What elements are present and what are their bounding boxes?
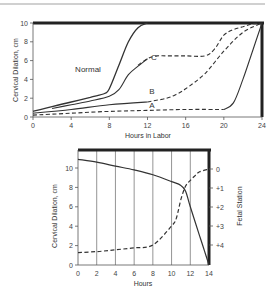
chart2-xtick-label: 14 <box>205 270 213 277</box>
chart2-xtick-label: 6 <box>132 270 136 277</box>
chart2-y2tick-label: +4 <box>216 242 224 249</box>
chart-dilation-vs-hours: 04812162024 0246810 NormalCBA Hours in L… <box>12 20 266 140</box>
chart2-y2tick-label: +3 <box>216 223 224 230</box>
series-line-fetal-station <box>78 169 209 253</box>
chart1-xtick-label: 16 <box>182 122 190 129</box>
series-line-cervical-dilation <box>78 159 209 265</box>
chart1-ytick-label: 10 <box>20 20 28 27</box>
chart1-xtick-label: 20 <box>220 122 228 129</box>
chart2-ytick-label: 2 <box>69 242 73 249</box>
chart1-xtick-label: 0 <box>31 122 35 129</box>
chart2-xtick-label: 10 <box>168 270 176 277</box>
chart2-ytick-label: 0 <box>69 262 73 269</box>
chart2-y2tick-label: +1 <box>216 185 224 192</box>
chart2-xlabel: Hours <box>134 280 153 287</box>
curve-label-b: B <box>149 87 154 96</box>
chart2-ytick-label: 10 <box>65 165 73 172</box>
chart1-xtick-label: 4 <box>69 122 73 129</box>
chart2-xtick-label: 8 <box>151 270 155 277</box>
chart-dilation-and-station: 02468101214 0246810 0+1+2+3+4 Hours Cerv… <box>51 150 243 287</box>
curve-label-a: A <box>149 101 155 110</box>
chart2-xtick-label: 12 <box>186 270 194 277</box>
chart1-ytick-label: 6 <box>24 57 28 64</box>
curve-label-c: C <box>151 53 157 62</box>
chart1-ytick-label: 8 <box>24 38 28 45</box>
chart1-xtick-label: 12 <box>144 122 152 129</box>
series-line-a-solid <box>224 23 262 110</box>
chart1-ytick-label: 0 <box>24 114 28 121</box>
chart2-y2tick-label: +2 <box>216 204 224 211</box>
chart2-ytick-label: 6 <box>69 203 73 210</box>
chart2-xtick-label: 4 <box>113 270 117 277</box>
chart1-xlabel: Hours in Labor <box>125 132 172 139</box>
chart2-xtick-label: 0 <box>76 270 80 277</box>
chart1-ytick-label: 4 <box>24 76 28 83</box>
chart1-ytick-label: 2 <box>24 95 28 102</box>
chart2-xtick-label: 2 <box>95 270 99 277</box>
chart2-y2tick-label: 0 <box>216 166 220 173</box>
chart1-ylabel: Cervical Dilation, cm <box>12 38 19 102</box>
chart2-y2label: Fetal Station <box>236 186 243 225</box>
series-line-b-dashed <box>148 23 263 102</box>
chart2-ytick-label: 4 <box>69 223 73 230</box>
chart1-xtick-label: 24 <box>258 122 266 129</box>
chart2-ylabel: Cervical Dilation, cm <box>51 184 58 248</box>
curve-label-normal: Normal <box>75 65 101 74</box>
chart1-xtick-label: 8 <box>107 122 111 129</box>
chart2-ytick-label: 8 <box>69 184 73 191</box>
charts-svg: 04812162024 0246810 NormalCBA Hours in L… <box>0 0 278 300</box>
